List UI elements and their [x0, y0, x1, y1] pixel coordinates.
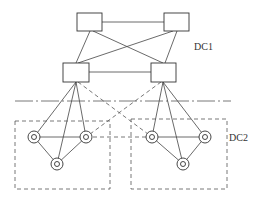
- dashed-link-mid-left-R1: [78, 82, 152, 137]
- switch-mid-right: [151, 63, 176, 82]
- dc2-left-group-box: [15, 121, 110, 189]
- node-L2: [80, 131, 92, 143]
- link-mid-right-R3: [163, 82, 183, 164]
- node-R2: [199, 131, 211, 143]
- switch-top-right: [164, 13, 189, 31]
- link-top-right-mid-right: [165, 31, 177, 63]
- dc1-label: DC1: [194, 41, 213, 52]
- node-R3: [177, 158, 189, 170]
- link-mid-left-L2: [76, 82, 86, 137]
- node-L3: [51, 158, 63, 170]
- switch-top-left: [77, 13, 102, 31]
- link-top-left-mid-left: [76, 31, 90, 63]
- link-mid-right-R1: [152, 82, 163, 137]
- link-top-left-mid-right: [93, 31, 163, 63]
- network-diagram: DC1 DC2: [0, 0, 255, 199]
- node-L1: [28, 131, 40, 143]
- dashed-link-mid-right-L2: [86, 82, 161, 137]
- dc2-right-group-box: [131, 119, 227, 189]
- node-R1: [146, 131, 158, 143]
- switch-mid-left: [63, 63, 89, 82]
- dc2-label: DC2: [229, 132, 248, 143]
- link-top-right-mid-left: [78, 31, 173, 63]
